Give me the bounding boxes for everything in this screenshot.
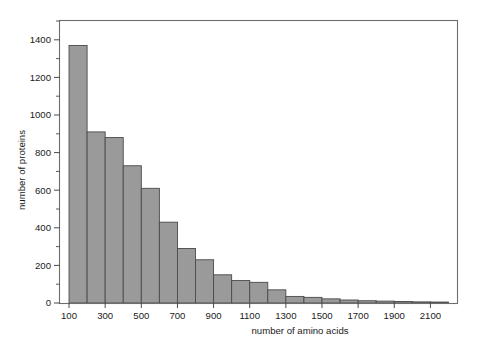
x-axis-tick-label: 1700: [347, 310, 368, 321]
x-axis-tick-label: 2100: [420, 310, 441, 321]
histogram-bar: [340, 300, 358, 303]
histogram-bar: [232, 280, 250, 303]
x-axis-tick-label: 700: [169, 310, 185, 321]
x-axis-tick-label: 100: [61, 310, 77, 321]
histogram-bar: [250, 282, 268, 303]
x-axis-tick-label: 1900: [384, 310, 405, 321]
y-axis-tick-label: 200: [35, 260, 51, 271]
histogram-bar: [214, 275, 232, 303]
histogram-bar: [394, 302, 412, 304]
y-axis-tick-label: 1400: [30, 34, 51, 45]
y-axis-tick-label: 400: [35, 222, 51, 233]
histogram-bar: [159, 222, 177, 303]
x-axis-tick-label: 1300: [275, 310, 296, 321]
x-axis-tick-label: 900: [206, 310, 222, 321]
histogram-bar: [286, 296, 304, 303]
protein-length-histogram: 0200400600800100012001400 10030050070090…: [0, 0, 484, 342]
histogram-bar: [177, 248, 195, 303]
y-axis-tick-label: 600: [35, 185, 51, 196]
histogram-bar: [376, 301, 394, 303]
histogram-bar: [87, 132, 105, 303]
x-axis-tick-label: 500: [133, 310, 149, 321]
x-axis-tick-label: 300: [97, 310, 113, 321]
y-axis-tick-label: 800: [35, 147, 51, 158]
histogram-figure: 0200400600800100012001400 10030050070090…: [0, 0, 484, 342]
x-axis-tick-label: 1500: [311, 310, 332, 321]
y-axis-tick-label: 1200: [30, 72, 51, 83]
histogram-bar: [412, 302, 430, 303]
histogram-bar: [141, 188, 159, 303]
y-axis-title: number of proteins: [16, 130, 27, 210]
histogram-bar: [268, 290, 286, 303]
histogram-bar: [358, 301, 376, 303]
histogram-bar: [430, 302, 448, 303]
histogram-bar: [322, 299, 340, 303]
histogram-bar: [69, 45, 87, 303]
x-axis-title: number of amino acids: [251, 325, 348, 336]
y-axis-tick-label: 0: [46, 297, 51, 308]
histogram-bar: [123, 166, 141, 303]
y-axis-tick-label: 1000: [30, 109, 51, 120]
histogram-bar: [196, 260, 214, 303]
histogram-bar: [105, 138, 123, 303]
x-axis-tick-label: 1100: [239, 310, 260, 321]
histogram-bar: [304, 297, 322, 303]
